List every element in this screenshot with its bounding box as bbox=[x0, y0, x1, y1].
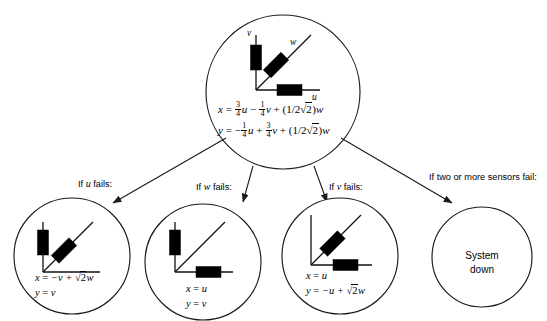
eq-var-u: u bbox=[248, 124, 254, 136]
root-axis-label-w: w bbox=[290, 38, 296, 48]
eq-sign: = bbox=[226, 124, 232, 136]
eq-lhs: x bbox=[186, 283, 191, 294]
node-v-failed-equation-x: x = u bbox=[306, 271, 327, 282]
label-suffix: fails: bbox=[91, 179, 112, 189]
sqrt-2: √2 bbox=[347, 286, 359, 297]
eq-var-v: v bbox=[272, 124, 277, 136]
label-prefix: If bbox=[329, 182, 337, 192]
eq-var-w: w bbox=[316, 103, 323, 115]
eq-op-plus-1: + bbox=[256, 124, 262, 136]
status-line-2: down bbox=[458, 263, 506, 277]
eq-lhs: x bbox=[35, 272, 40, 283]
eq-var-w: w bbox=[322, 124, 329, 136]
frac-den: 4 bbox=[259, 110, 265, 118]
eq-tail: w bbox=[358, 285, 365, 296]
sensor-block-v bbox=[38, 230, 49, 255]
system-down-status: System down bbox=[458, 249, 506, 276]
frac-den: 4 bbox=[235, 110, 241, 118]
label-prefix: If bbox=[196, 182, 204, 192]
sqrt-2: √2 bbox=[307, 125, 319, 136]
eq-tail: w bbox=[86, 272, 93, 283]
sensor-block-u bbox=[196, 267, 221, 278]
eq-sign: = bbox=[313, 285, 319, 296]
branch-label-u-fails: If u fails: bbox=[78, 179, 112, 189]
root-equation-y: y = −14u + 34v + (1/2√2)w bbox=[218, 122, 330, 140]
eq-sign: = bbox=[313, 270, 319, 281]
eq-op-minus: − bbox=[250, 103, 256, 115]
eq-lhs: y bbox=[218, 124, 223, 136]
eq-sign: = bbox=[193, 283, 199, 294]
sqrt-2: √2 bbox=[300, 104, 312, 115]
node-w-failed-equation-x: x = u bbox=[186, 284, 207, 295]
eq-lhs: y bbox=[35, 287, 40, 298]
sensor-block-u bbox=[333, 260, 358, 271]
eq-op-plus-2: + bbox=[280, 124, 286, 136]
fraction-3-4: 34 bbox=[266, 122, 272, 140]
node-u-failed-equation-x: x = −v + √2w bbox=[35, 273, 93, 284]
sqrt-2: √2 bbox=[75, 273, 87, 284]
eq-body: −u + bbox=[322, 285, 347, 296]
diagram-canvas: v w u x = 34u − 14v + (1/2√2)w y = −14u … bbox=[0, 0, 547, 321]
eq-lhs: x bbox=[218, 103, 223, 115]
fraction-1-4: 14 bbox=[241, 122, 247, 140]
eq-neg-sign: − bbox=[235, 124, 241, 136]
frac-den: 4 bbox=[241, 131, 247, 139]
edge-to-v-failed bbox=[314, 166, 327, 202]
sensor-block-v bbox=[251, 45, 262, 70]
eq-op-plus: + bbox=[274, 103, 280, 115]
edge-to-system-down bbox=[341, 138, 452, 203]
eq-sign: = bbox=[42, 287, 48, 298]
eq-sign: = bbox=[193, 298, 199, 309]
fraction-1-4: 14 bbox=[259, 101, 265, 119]
eq-var-v: v bbox=[266, 103, 271, 115]
fraction-3-4: 34 bbox=[235, 101, 241, 119]
label-prefix: If two or more sensors fail: bbox=[429, 172, 537, 182]
node-v-failed bbox=[282, 198, 398, 314]
eq-body: −v + bbox=[51, 272, 75, 283]
node-u-failed bbox=[14, 198, 130, 314]
eq-paren-open: (1/2 bbox=[283, 103, 301, 115]
edge-to-u-failed bbox=[113, 138, 226, 203]
eq-sign: = bbox=[226, 103, 232, 115]
eq-body: v bbox=[202, 298, 207, 309]
label-prefix: If bbox=[78, 179, 86, 189]
eq-paren-open: (1/2 bbox=[289, 124, 307, 136]
sensor-block-u bbox=[277, 85, 302, 96]
label-suffix: fails: bbox=[341, 182, 362, 192]
node-w-failed-equation-y: y = v bbox=[186, 299, 207, 310]
root-axis-label-v: v bbox=[247, 29, 251, 39]
radicand: 2 bbox=[312, 123, 319, 136]
eq-lhs: y bbox=[306, 285, 311, 296]
frac-den: 4 bbox=[266, 131, 272, 139]
eq-body: u bbox=[322, 270, 327, 281]
node-u-failed-equation-y: y = v bbox=[35, 288, 56, 299]
eq-body: u bbox=[202, 283, 207, 294]
eq-lhs: x bbox=[306, 270, 311, 281]
eq-lhs: y bbox=[186, 298, 191, 309]
label-suffix: fails: bbox=[210, 182, 231, 192]
root-equation-x: x = 34u − 14v + (1/2√2)w bbox=[218, 101, 323, 119]
branch-label-v-fails: If v fails: bbox=[329, 182, 363, 192]
node-v-failed-equation-y: y = −u + √2w bbox=[306, 286, 365, 297]
edge-to-w-failed bbox=[243, 166, 253, 202]
status-line-1: System bbox=[458, 249, 506, 263]
sensor-block-v bbox=[170, 230, 181, 255]
eq-body: v bbox=[51, 287, 56, 298]
eq-sign: = bbox=[42, 272, 48, 283]
branch-label-w-fails: If w fails: bbox=[196, 182, 232, 192]
eq-var-u: u bbox=[242, 103, 248, 115]
branch-label-multiple-fail: If two or more sensors fail: bbox=[429, 173, 537, 182]
